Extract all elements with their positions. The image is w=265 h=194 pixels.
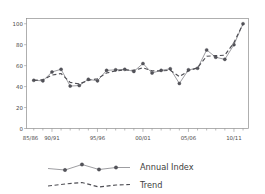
data-point-marker bbox=[96, 79, 99, 82]
data-point-marker bbox=[60, 68, 63, 71]
x-tick-label: 85/86 bbox=[23, 135, 39, 141]
x-tick-label: 10/11 bbox=[226, 135, 242, 141]
x-tick-label: 95/96 bbox=[90, 135, 106, 141]
y-tick-label: 20 bbox=[16, 105, 23, 111]
data-point-marker bbox=[151, 71, 154, 74]
data-point-marker bbox=[205, 48, 208, 51]
legend-marker bbox=[97, 168, 100, 171]
x-tick-label: 00/01 bbox=[135, 135, 151, 141]
data-point-marker bbox=[223, 58, 226, 61]
data-point-marker bbox=[178, 82, 181, 85]
data-point-marker bbox=[69, 85, 72, 88]
x-tick-label: 05/06 bbox=[181, 135, 197, 141]
legend-label-trend: Trend bbox=[139, 180, 162, 190]
y-tick-label: 100 bbox=[13, 21, 24, 27]
data-point-marker bbox=[105, 69, 108, 72]
data-point-marker bbox=[50, 70, 53, 73]
x-tick-label: 90/91 bbox=[44, 135, 60, 141]
legend-marker bbox=[80, 163, 83, 166]
y-tick-label: 80 bbox=[16, 42, 23, 48]
chart-figure: 020406080100 85/8690/9195/9600/0105/0610… bbox=[0, 0, 265, 194]
x-axis: 85/8690/9195/9600/0105/0610/11 bbox=[23, 129, 243, 142]
data-point-marker bbox=[232, 43, 235, 46]
series-layer bbox=[32, 22, 244, 87]
data-point-marker bbox=[141, 62, 144, 65]
chart-legend: Annual IndexTrend bbox=[48, 162, 194, 190]
y-axis: 020406080100 bbox=[13, 21, 27, 132]
legend-label-annual-index: Annual Index bbox=[140, 162, 194, 172]
y-tick-label: 60 bbox=[16, 63, 23, 69]
y-tick-label: 40 bbox=[16, 84, 23, 90]
legend-marker bbox=[114, 166, 117, 169]
data-point-marker bbox=[78, 84, 81, 87]
legend-sample-trend bbox=[48, 183, 130, 188]
legend-marker bbox=[63, 168, 66, 171]
y-tick-label: 0 bbox=[19, 126, 23, 132]
